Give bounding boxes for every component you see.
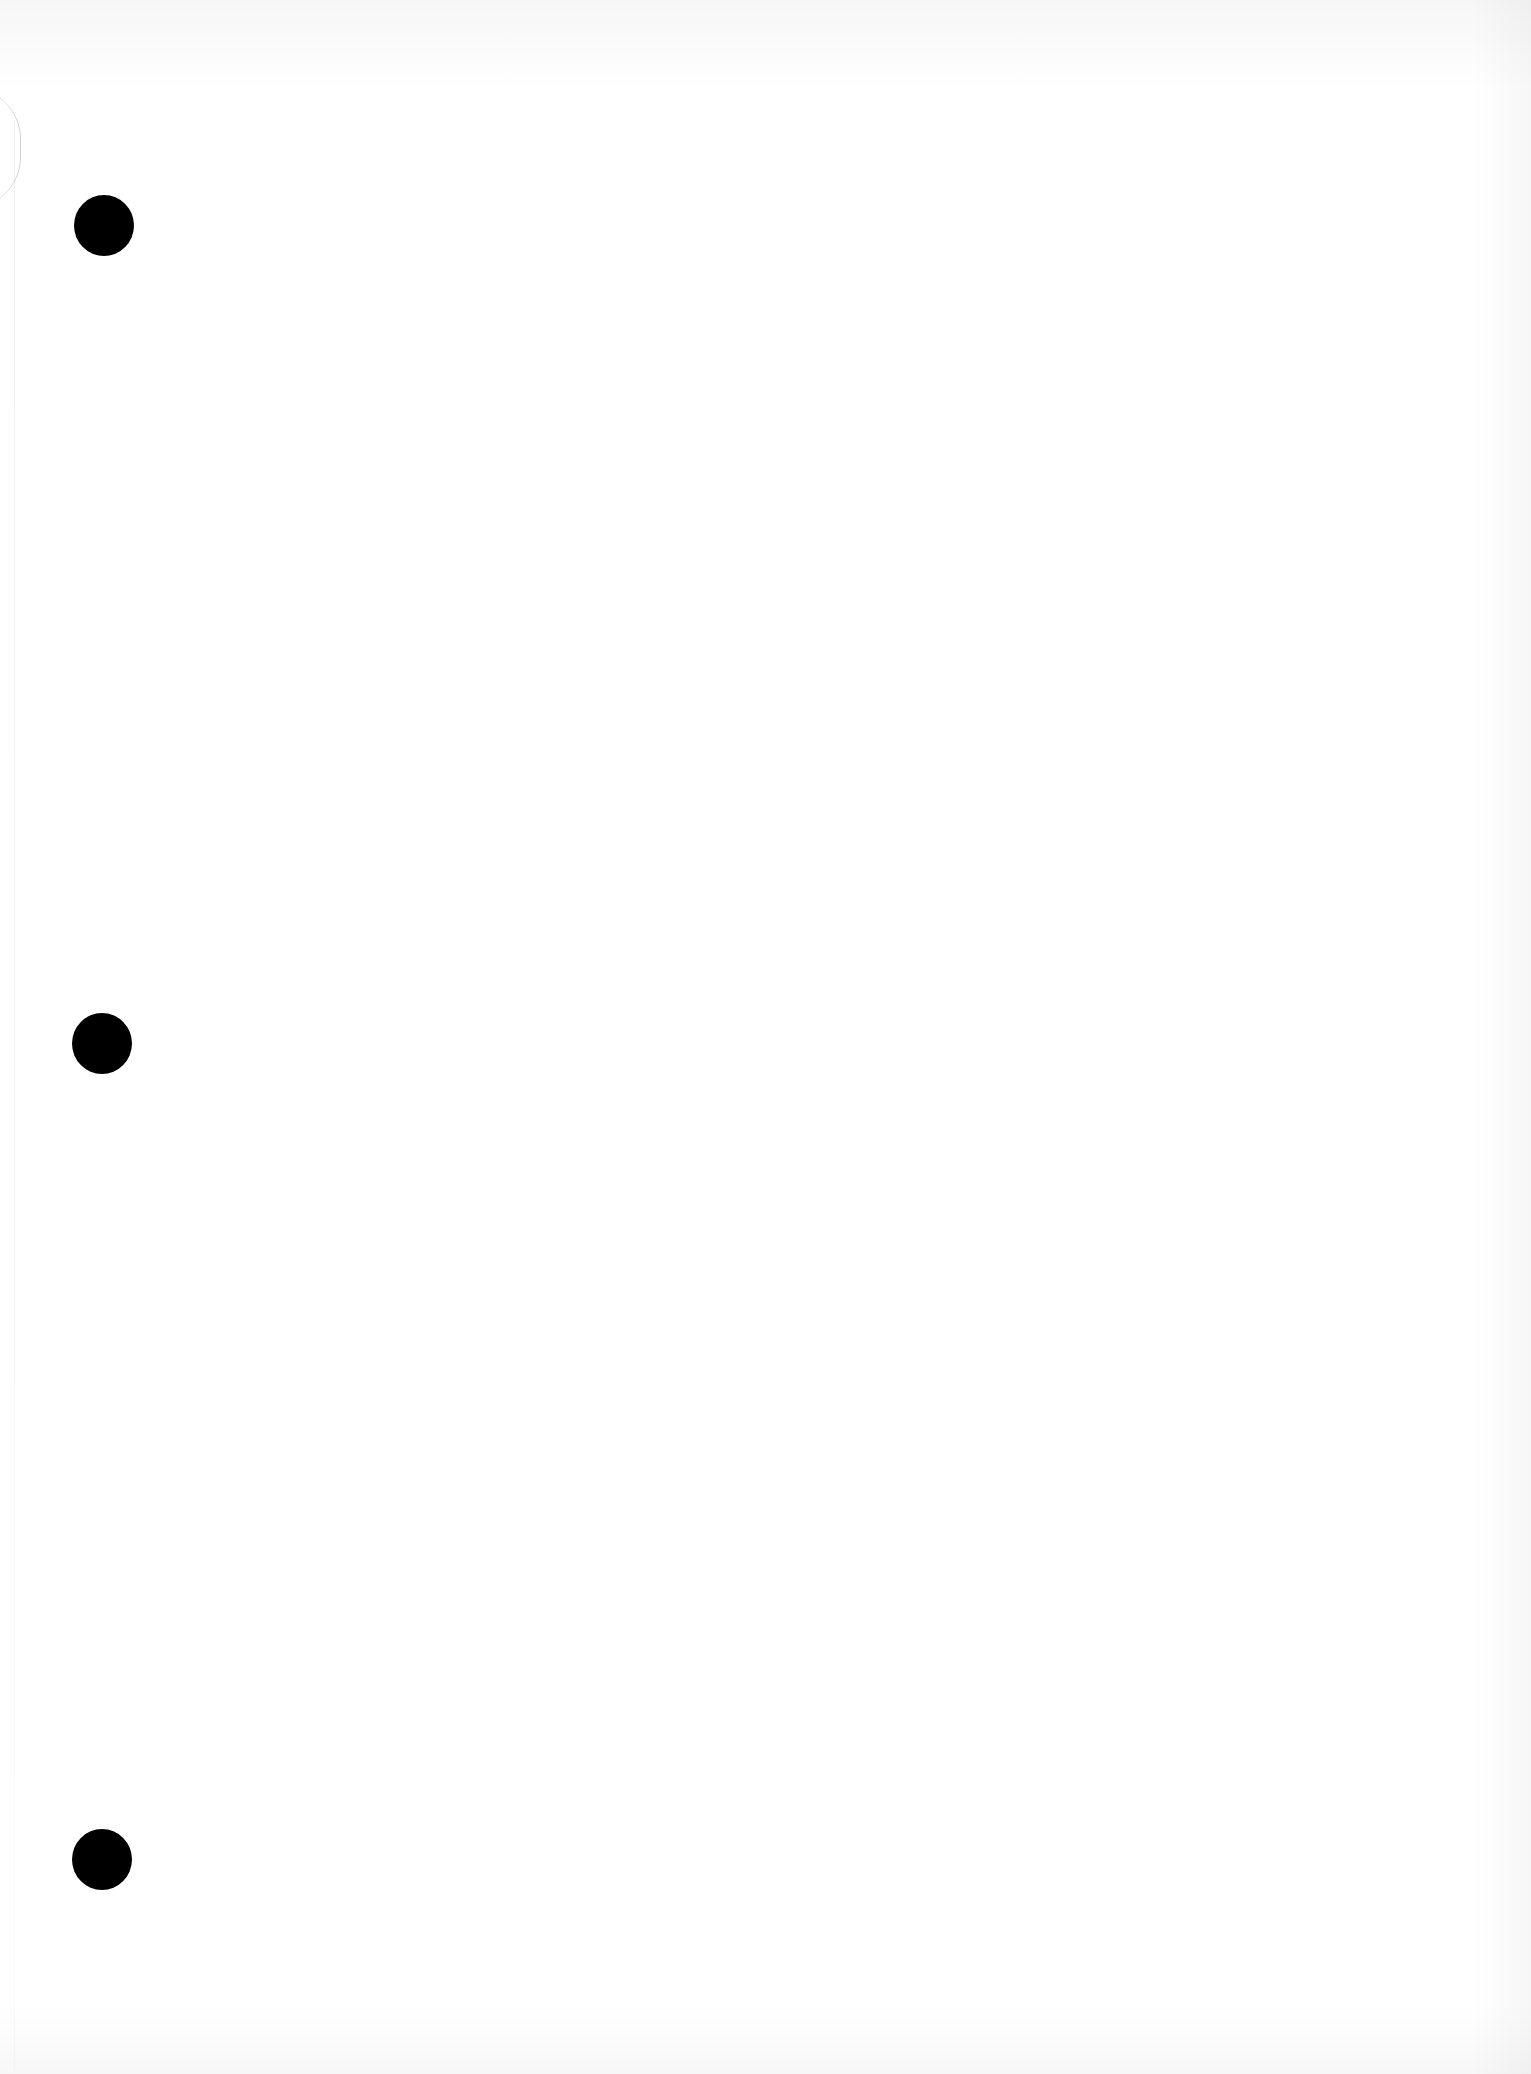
punch-hole-top [74, 195, 134, 256]
punch-hole-middle [72, 1013, 132, 1074]
punch-hole-bottom [72, 1829, 132, 1890]
blank-document-page [0, 0, 1531, 2074]
page-corner-curl [0, 88, 21, 208]
page-left-edge [14, 120, 15, 2070]
